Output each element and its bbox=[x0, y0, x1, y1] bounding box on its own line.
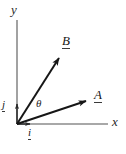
y-axis-label: y bbox=[11, 3, 17, 16]
vector-A-label: A bbox=[94, 88, 102, 103]
angle-theta-label: θ bbox=[36, 98, 41, 109]
diagram-canvas bbox=[0, 0, 126, 154]
vector-B-arrow bbox=[17, 58, 59, 124]
unit-vector-i-label: i bbox=[28, 127, 31, 140]
x-axis-label: x bbox=[112, 115, 118, 128]
vector-B-label: B bbox=[62, 34, 70, 49]
vector-A-arrow bbox=[17, 101, 86, 124]
unit-vector-j-label: j bbox=[2, 99, 5, 112]
vector-diagram-figure: y x B A j i θ bbox=[0, 0, 126, 154]
